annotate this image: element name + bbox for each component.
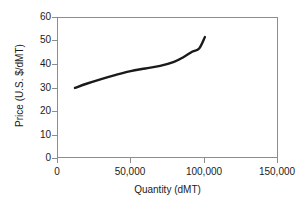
plot-frame-top-border [57, 17, 278, 18]
y-axis-tick-mark [52, 40, 58, 41]
x-axis-tick-mark [277, 158, 278, 163]
x-axis-tick-label: 0 [27, 167, 87, 177]
x-axis-tick-label: 100,000 [174, 167, 234, 177]
x-axis-tick-label: 150,000 [247, 167, 303, 177]
y-axis-tick-mark [52, 17, 58, 18]
x-axis-tick-mark [57, 158, 58, 163]
plot-frame-right-border [277, 17, 278, 158]
x-axis-tick-mark [130, 158, 131, 163]
y-axis-tick-mark [52, 88, 58, 89]
chart-container: 60 50 40 30 20 10 0 0 50,000 100,000 150… [0, 0, 303, 207]
y-axis-title: Price (U.S. $/dMT) [14, 11, 25, 161]
y-axis-tick-mark [52, 111, 58, 112]
y-axis-tick-mark [52, 135, 58, 136]
plot-area [57, 17, 278, 158]
x-axis-tick-label: 50,000 [100, 167, 160, 177]
x-axis-tick-mark [204, 158, 205, 163]
x-axis-title: Quantity (dMT) [57, 184, 278, 195]
y-axis-tick-mark [52, 64, 58, 65]
